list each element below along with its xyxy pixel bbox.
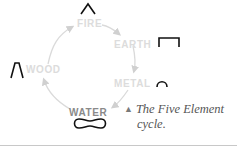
label-fire: FIRE: [77, 19, 102, 29]
fire-symbol-icon: [81, 4, 95, 14]
arrow-wood-to-fire: [48, 27, 72, 64]
metal-symbol-icon: [157, 82, 167, 87]
caption-line-2: cycle.: [124, 117, 236, 132]
earth-symbol-icon: [159, 38, 179, 47]
water-symbol-icon: [75, 119, 106, 128]
arrow-fire-to-earth: [102, 25, 119, 34]
label-wood: WOOD: [26, 65, 61, 75]
caption-line-1: The Five Element: [136, 102, 224, 116]
label-water: WATER: [69, 108, 107, 118]
figure-caption: ▲The Five Element cycle.: [124, 102, 236, 132]
page-divider: [0, 145, 237, 146]
arrow-water-to-wood: [44, 80, 70, 109]
caption-triangle-icon: ▲: [124, 104, 133, 114]
label-metal: METAL: [114, 79, 151, 89]
label-earth: EARTH: [114, 40, 151, 50]
wood-symbol-icon: [11, 63, 23, 78]
